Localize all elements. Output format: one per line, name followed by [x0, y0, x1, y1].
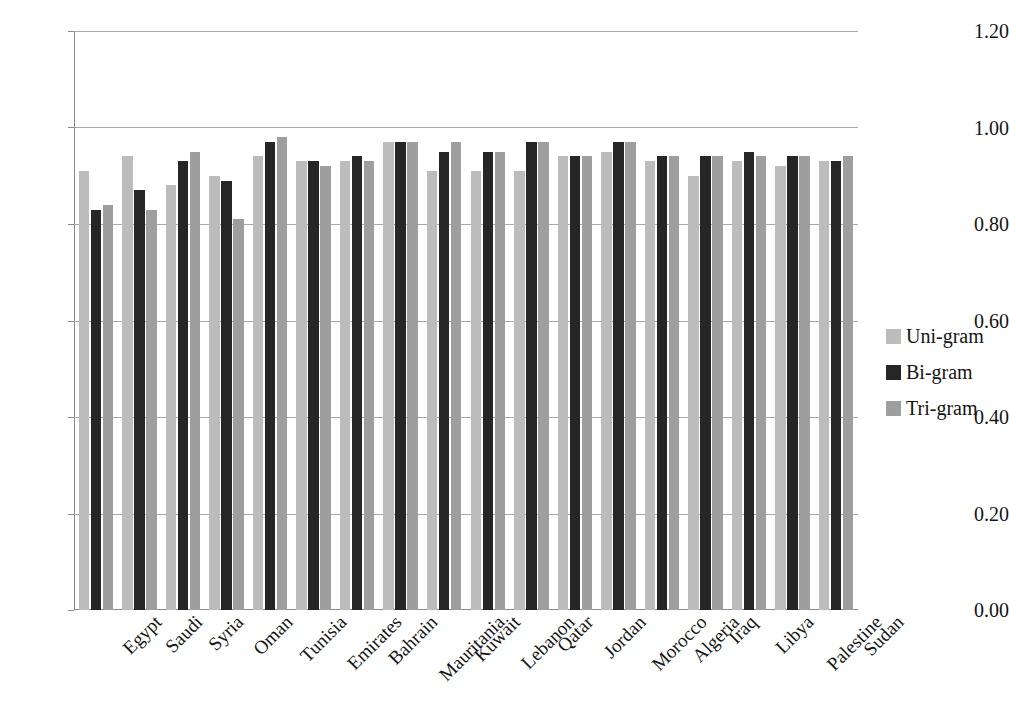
bar-bi-gram [483, 152, 494, 610]
legend-swatch-icon [886, 401, 901, 416]
bar-group [775, 31, 810, 610]
legend-swatch-icon [886, 365, 901, 380]
bar-uni-gram [688, 176, 699, 610]
bar-uni-gram [209, 176, 220, 610]
bar-group [296, 31, 331, 610]
bar-bi-gram [613, 142, 624, 610]
bar-bi-gram [134, 190, 145, 610]
x-tick-label: Syria [205, 612, 247, 654]
bar-uni-gram [601, 152, 612, 610]
bar-group [383, 31, 418, 610]
bar-tri-gram [625, 142, 636, 610]
x-tick-label: Libya [772, 612, 817, 657]
bar-bi-gram [178, 161, 189, 610]
bar-uni-gram [122, 156, 133, 610]
x-tick-label: Jordan [600, 612, 649, 661]
bar-uni-gram [253, 156, 264, 610]
bar-chart: 0.000.200.400.600.801.001.20 EgyptSaudiS… [0, 0, 1009, 716]
x-axis-labels: EgyptSaudiSyriaOmanTunisiaEmiratesBahrai… [74, 612, 858, 716]
legend-label: Bi-gram [906, 362, 973, 382]
bar-tri-gram [320, 166, 331, 610]
bar-tri-gram [843, 156, 854, 610]
bar-group [645, 31, 680, 610]
bar-bi-gram [265, 142, 276, 610]
bar-tri-gram [407, 142, 418, 610]
bar-tri-gram [451, 142, 462, 610]
bar-uni-gram [645, 161, 656, 610]
bar-group [253, 31, 288, 610]
y-tick-label: 1.20 [945, 21, 1009, 41]
bar-tri-gram [582, 156, 593, 610]
bar-tri-gram [146, 210, 157, 610]
legend-item-bi[interactable]: Bi-gram [886, 354, 1006, 390]
bar-bi-gram [352, 156, 363, 610]
bar-group [166, 31, 201, 610]
bar-uni-gram [340, 161, 351, 610]
bar-bi-gram [787, 156, 798, 610]
x-tick-label: Egypt [119, 612, 165, 658]
legend-swatch-icon [886, 329, 901, 344]
bar-bi-gram [221, 181, 232, 610]
bar-tri-gram [364, 161, 375, 610]
bar-bi-gram [439, 152, 450, 610]
bar-tri-gram [756, 156, 767, 610]
y-tick-label: 0.00 [945, 600, 1009, 620]
bar-bi-gram [91, 210, 102, 610]
bar-tri-gram [495, 152, 506, 610]
chart-title [0, 0, 880, 2]
bar-group [79, 31, 114, 610]
bar-uni-gram [471, 171, 482, 610]
y-tick-label: 1.00 [945, 118, 1009, 138]
bar-bi-gram [308, 161, 319, 610]
x-tick-label: Tunisia [296, 612, 349, 665]
bar-uni-gram [819, 161, 830, 610]
legend-item-uni[interactable]: Uni-gram [886, 318, 1006, 354]
bar-group [209, 31, 244, 610]
bar-bi-gram [395, 142, 406, 610]
bar-group [427, 31, 462, 610]
bar-uni-gram [427, 171, 438, 610]
bar-uni-gram [514, 171, 525, 610]
bar-bi-gram [526, 142, 537, 610]
bar-group [122, 31, 157, 610]
y-tick-label: 0.80 [945, 214, 1009, 234]
bar-uni-gram [79, 171, 90, 610]
bar-tri-gram [233, 219, 244, 610]
legend-label: Tri-gram [906, 398, 977, 418]
bar-bi-gram [831, 161, 842, 610]
x-tick-label: Oman [250, 612, 296, 658]
bar-uni-gram [775, 166, 786, 610]
bar-bi-gram [657, 156, 668, 610]
y-tick-label: 0.20 [945, 504, 1009, 524]
bar-group [819, 31, 854, 610]
bar-uni-gram [166, 185, 177, 610]
bar-group [688, 31, 723, 610]
x-tick-label: Saudi [162, 612, 206, 656]
bar-bi-gram [700, 156, 711, 610]
bar-bi-gram [570, 156, 581, 610]
bar-tri-gram [277, 137, 288, 610]
legend: Uni-gramBi-gramTri-gram [886, 318, 1006, 426]
legend-label: Uni-gram [906, 326, 984, 346]
bar-tri-gram [190, 152, 201, 610]
bar-uni-gram [732, 161, 743, 610]
bar-group [732, 31, 767, 610]
bar-uni-gram [558, 156, 569, 610]
bar-uni-gram [383, 142, 394, 610]
bar-group [601, 31, 636, 610]
bar-group [340, 31, 375, 610]
bar-uni-gram [296, 161, 307, 610]
bar-group [514, 31, 549, 610]
bar-group [558, 31, 593, 610]
bar-tri-gram [799, 156, 810, 610]
bars-layer [74, 31, 858, 610]
bar-bi-gram [744, 152, 755, 610]
bar-group [471, 31, 506, 610]
bar-tri-gram [712, 156, 723, 610]
bar-tri-gram [669, 156, 680, 610]
bar-tri-gram [538, 142, 549, 610]
bar-tri-gram [103, 205, 114, 610]
legend-item-tri[interactable]: Tri-gram [886, 390, 1006, 426]
